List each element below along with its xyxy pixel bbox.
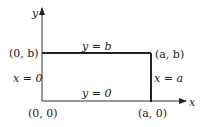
- origin-label: (0, 0): [28, 107, 58, 120]
- top-edge-label: y = b: [81, 40, 111, 53]
- top-right-corner-label: (a, b): [155, 48, 184, 61]
- right-edge-label: x = a: [154, 72, 183, 85]
- top-left-corner-label: (0, b): [9, 47, 39, 60]
- rectangle-region-diagram: y x (0, b) (a, b) (0, 0) (a, 0) y = b y …: [0, 0, 205, 127]
- x-axis-label: x: [189, 96, 196, 109]
- y-axis-label: y: [31, 7, 39, 20]
- left-edge-label: x = 0: [13, 72, 42, 85]
- bottom-right-corner-label: (a, 0): [138, 107, 167, 120]
- bottom-edge-label: y = 0: [81, 87, 111, 100]
